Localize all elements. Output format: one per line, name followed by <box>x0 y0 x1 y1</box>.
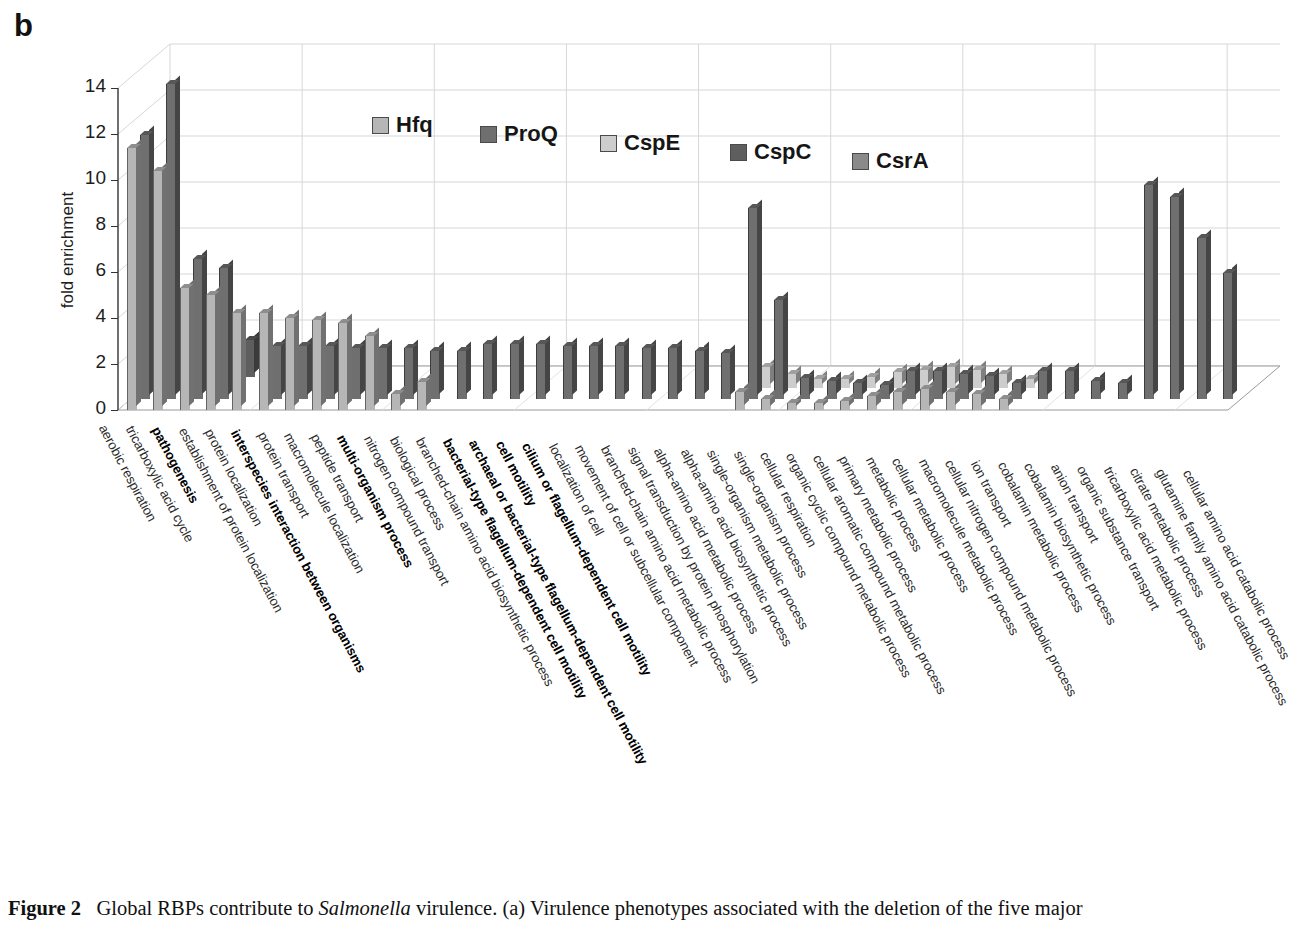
x-axis-category-labels: aerobic respirationtricarboxylic acid cy… <box>0 0 1308 880</box>
figure-caption-italic-species: Salmonella <box>319 897 411 919</box>
chart-plot-area: fold enrichment 02468101214 HfqProQCspEC… <box>0 0 1308 880</box>
figure-caption-text-2: virulence. (a) Virulence phenotypes asso… <box>411 897 1083 919</box>
figure-caption-text-1: Global RBPs contribute to <box>96 897 318 919</box>
figure-caption: Figure 2 Global RBPs contribute to Salmo… <box>8 896 1304 922</box>
figure-caption-label: Figure 2 <box>8 897 81 919</box>
